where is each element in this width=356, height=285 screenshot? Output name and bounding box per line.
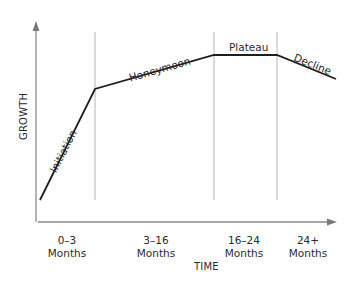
x-tick-24-plus-months: 24+ Months	[289, 234, 327, 260]
x-tick-unit: Months	[225, 247, 263, 260]
x-tick-range: 3–16	[137, 234, 175, 247]
x-tick-unit: Months	[48, 247, 86, 260]
y-axis-title: GROWTH	[19, 94, 29, 140]
x-tick-unit: Months	[289, 247, 327, 260]
x-tick-3-16-months: 3–16 Months	[137, 234, 175, 260]
x-axis-arrow-icon	[327, 219, 337, 226]
x-tick-range: 0–3	[48, 234, 86, 247]
phase-label-plateau: Plateau	[229, 42, 268, 53]
x-axis-title: TIME	[194, 262, 219, 272]
growth-line	[40, 55, 336, 200]
x-tick-16-24-months: 16–24 Months	[225, 234, 263, 260]
x-tick-unit: Months	[137, 247, 175, 260]
x-tick-0-3-months: 0–3 Months	[48, 234, 86, 260]
y-axis-arrow-icon	[33, 21, 40, 31]
x-tick-range: 24+	[289, 234, 327, 247]
x-tick-range: 16–24	[225, 234, 263, 247]
